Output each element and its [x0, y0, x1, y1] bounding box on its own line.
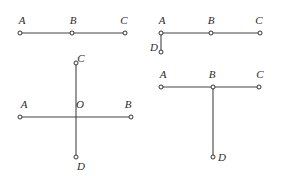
figure-4-label-c: C: [256, 69, 263, 80]
figure-2-point-d: [159, 50, 163, 54]
figure-1-point-a: [18, 31, 22, 35]
figure-2-label-b: B: [208, 15, 215, 26]
figure-4-point-a: [159, 85, 163, 89]
figure-2-label-a: A: [159, 15, 166, 26]
figure-2-label-d: D: [150, 42, 158, 53]
figure-3-label-o: O: [76, 99, 84, 110]
geometry-drawing: [0, 0, 281, 176]
figure-2-point-c: [258, 31, 262, 35]
figure-3-point-b: [129, 115, 133, 119]
figure-canvas: A B C A B C D A B C D O A B C D: [0, 0, 281, 176]
figure-3-group: [18, 61, 133, 159]
figure-3-point-a: [18, 115, 22, 119]
figure-1-group: [18, 31, 127, 35]
figure-4-point-b: [211, 85, 215, 89]
figure-1-point-b: [70, 31, 74, 35]
figure-4-label-b: B: [209, 69, 216, 80]
figure-4-point-c: [257, 85, 261, 89]
figure-1-label-a: A: [19, 15, 26, 26]
figure-2-point-a: [159, 31, 163, 35]
figure-3-point-d: [74, 155, 78, 159]
figure-1-label-b: B: [70, 15, 77, 26]
figure-4-point-d: [211, 155, 215, 159]
figure-2-group: [159, 31, 262, 54]
figure-3-label-a: A: [21, 99, 28, 110]
figure-1-point-c: [123, 31, 127, 35]
figure-2-point-b: [209, 31, 213, 35]
figure-4-label-a: A: [160, 69, 167, 80]
figure-1-label-c: C: [120, 15, 127, 26]
figure-3-label-c: C: [77, 53, 84, 64]
figure-2-label-c: C: [255, 15, 262, 26]
figure-4-label-d: D: [218, 152, 226, 163]
figure-3-label-b: B: [125, 99, 132, 110]
figure-3-label-d: D: [77, 161, 85, 172]
figure-4-group: [159, 85, 261, 159]
